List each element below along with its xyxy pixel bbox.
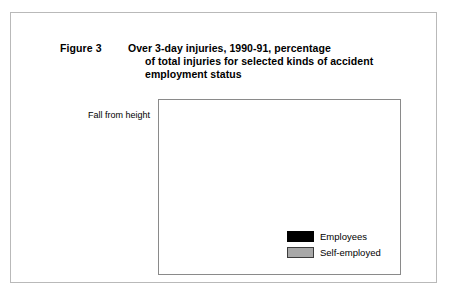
- title-line-3: employment status: [128, 68, 420, 81]
- figure-number-label: Figure 3: [60, 42, 102, 54]
- self-employed-swatch-icon: [287, 247, 314, 258]
- title-line-1: Over 3-day injuries, 1990-91, percentage: [128, 42, 420, 55]
- category-label: Fall from height: [88, 110, 150, 120]
- legend-item-employees: Employees: [287, 230, 395, 244]
- title-line-2: of total injuries for selected kinds of …: [128, 55, 420, 68]
- plot-area: Employees Self-employed: [158, 99, 401, 275]
- chart-legend: Employees Self-employed: [287, 230, 395, 262]
- figure-title: Over 3-day injuries, 1990-91, percentage…: [128, 42, 420, 81]
- legend-item-self-employed: Self-employed: [287, 246, 395, 260]
- legend-label-employees: Employees: [320, 230, 367, 243]
- legend-label-self-employed: Self-employed: [320, 246, 381, 259]
- figure-outer-frame: Figure 3 Over 3-day injuries, 1990-91, p…: [10, 12, 437, 283]
- employees-swatch-icon: [287, 231, 314, 242]
- category-axis: Fall from height: [31, 99, 154, 275]
